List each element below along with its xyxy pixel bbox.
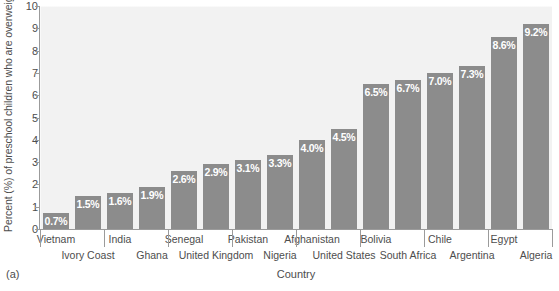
bar-value-label: 7.3% xyxy=(459,68,485,80)
bar-value-label: 9.2% xyxy=(523,26,549,38)
x-label-algeria: Algeria xyxy=(520,249,553,261)
y-axis-tick-labels: 012345678910 xyxy=(18,0,38,229)
bar-value-label: 8.6% xyxy=(491,39,517,51)
y-axis-tick-mark xyxy=(35,140,40,141)
y-axis-tick-mark xyxy=(35,73,40,74)
x-label-egypt: Egypt xyxy=(491,233,518,245)
bar-argentina: 7.3% xyxy=(459,66,485,229)
x-label-ivory-coast: Ivory Coast xyxy=(61,249,114,261)
bar-value-label: 3.1% xyxy=(235,162,261,174)
x-label-united-kingdom: United Kingdom xyxy=(179,249,254,261)
x-axis-group-separator xyxy=(168,230,169,247)
x-label-senegal: Senegal xyxy=(165,233,204,245)
x-axis-group-separator xyxy=(360,230,361,247)
x-label-bolivia: Bolivia xyxy=(361,233,392,245)
x-label-argentina: Argentina xyxy=(450,249,495,261)
y-axis-tick-mark xyxy=(35,51,40,52)
x-axis-group-separator xyxy=(424,230,425,247)
y-axis-tick-mark xyxy=(35,184,40,185)
bar-bolivia: 6.5% xyxy=(363,84,389,229)
bar-ghana: 1.9% xyxy=(139,187,165,229)
panel-caption: (a) xyxy=(6,268,19,280)
bar-value-label: 0.7% xyxy=(43,215,69,227)
bar-chile: 7.0% xyxy=(427,73,453,229)
x-axis-group-separator xyxy=(552,230,553,247)
bar-value-label: 4.5% xyxy=(331,131,357,143)
bar-value-label: 6.5% xyxy=(363,86,389,98)
bar-united-kingdom: 2.9% xyxy=(203,164,229,229)
bar-algeria: 9.2% xyxy=(523,24,549,229)
y-axis-title: Percent (%) of preschool children who ar… xyxy=(2,0,14,232)
bar-south-africa: 6.7% xyxy=(395,80,421,229)
x-label-afghanistan: Afghanistan xyxy=(284,233,339,245)
y-axis-tick-mark xyxy=(35,207,40,208)
x-label-chile: Chile xyxy=(428,233,452,245)
y-axis-tick-mark xyxy=(35,162,40,163)
bar-value-label: 1.5% xyxy=(75,198,101,210)
bar-ivory-coast: 1.5% xyxy=(75,196,101,229)
x-axis-group-separator xyxy=(104,230,105,247)
chart-plot-area: 0.7%1.5%1.6%1.9%2.6%2.9%3.1%3.3%4.0%4.5%… xyxy=(40,6,552,229)
y-axis-tick-mark xyxy=(35,229,40,230)
bar-value-label: 2.9% xyxy=(203,166,229,178)
bar-value-label: 1.6% xyxy=(107,195,133,207)
bar-united-states: 4.5% xyxy=(331,129,357,229)
x-axis-group-separator xyxy=(296,230,297,247)
x-label-vietnam: Vietnam xyxy=(37,233,75,245)
bar-vietnam: 0.7% xyxy=(43,213,69,229)
bar-india: 1.6% xyxy=(107,193,133,229)
x-axis-title: Country xyxy=(40,268,552,280)
bar-pakistan: 3.1% xyxy=(235,160,261,229)
y-axis-tick-mark xyxy=(35,118,40,119)
x-axis-category-labels: VietnamIvory CoastIndiaGhanaSenegalUnite… xyxy=(40,229,552,271)
x-label-south-africa: South Africa xyxy=(380,249,437,261)
x-axis-group-separator xyxy=(40,230,41,247)
bar-value-label: 4.0% xyxy=(299,142,325,154)
bar-nigeria: 3.3% xyxy=(267,155,293,229)
bar-value-label: 3.3% xyxy=(267,157,293,169)
y-axis-tick-mark xyxy=(35,28,40,29)
bar-senegal: 2.6% xyxy=(171,171,197,229)
x-label-pakistan: Pakistan xyxy=(228,233,268,245)
x-label-india: India xyxy=(109,233,132,245)
x-axis-group-separator xyxy=(232,230,233,247)
y-axis-tick-mark xyxy=(35,95,40,96)
bar-value-label: 6.7% xyxy=(395,82,421,94)
x-axis-group-separator xyxy=(488,230,489,247)
bar-value-label: 1.9% xyxy=(139,189,165,201)
bar-value-label: 7.0% xyxy=(427,75,453,87)
x-label-ghana: Ghana xyxy=(136,249,168,261)
y-axis-tick-mark xyxy=(35,6,40,7)
bar-egypt: 8.6% xyxy=(491,37,517,229)
bar-value-label: 2.6% xyxy=(171,173,197,185)
x-label-nigeria: Nigeria xyxy=(263,249,296,261)
x-label-united-states: United States xyxy=(312,249,375,261)
bar-afghanistan: 4.0% xyxy=(299,140,325,229)
